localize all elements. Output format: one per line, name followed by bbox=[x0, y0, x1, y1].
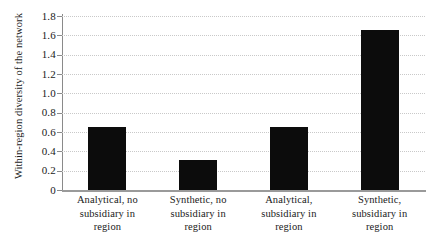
x-axis-category-label-line: Synthetic, bbox=[334, 193, 425, 207]
y-axis-tick-mark bbox=[57, 16, 62, 17]
x-axis-category-label-line: region bbox=[153, 220, 244, 234]
x-axis-category-label-line: region bbox=[62, 220, 153, 234]
x-axis-category-label: Analytical,subsidiary inregion bbox=[244, 193, 335, 234]
y-axis-tick-label: 0.8 bbox=[30, 107, 56, 118]
bar bbox=[361, 30, 399, 190]
y-axis-title: Within-region diversity of the network bbox=[11, 0, 27, 196]
y-axis-tick-mark bbox=[57, 171, 62, 172]
bar bbox=[270, 127, 308, 190]
y-axis-tick-label: 0.6 bbox=[30, 127, 56, 138]
x-axis-category-label-line: subsidiary in bbox=[244, 207, 335, 221]
x-axis-category-label-line: region bbox=[334, 220, 425, 234]
y-axis-tick-label: 1.2 bbox=[30, 69, 56, 80]
x-axis-category-label-line: region bbox=[244, 220, 335, 234]
x-axis-category-label: Analytical, nosubsidiary inregion bbox=[62, 193, 153, 234]
x-axis-category-label-line: Analytical, bbox=[244, 193, 335, 207]
plot-area bbox=[62, 16, 425, 190]
y-axis-tick-label: 1.6 bbox=[30, 30, 56, 41]
y-axis-tick-label: 1.4 bbox=[30, 49, 56, 60]
x-axis-category-label-line: subsidiary in bbox=[62, 207, 153, 221]
bar-chart: Within-region diversity of the network 1… bbox=[0, 0, 438, 238]
y-axis-tick-mark bbox=[57, 151, 62, 152]
x-axis-category-labels: Analytical, nosubsidiary inregionSynthet… bbox=[62, 193, 426, 238]
y-axis-tick-label: 1.8 bbox=[30, 11, 56, 22]
y-axis-tick-mark bbox=[57, 35, 62, 36]
x-axis-line bbox=[62, 190, 426, 192]
y-axis-tick-mark bbox=[57, 132, 62, 133]
y-axis-tick-mark bbox=[57, 74, 62, 75]
x-axis-category-label-line: subsidiary in bbox=[334, 207, 425, 221]
y-axis-tick-labels: 1.81.61.41.21.00.80.60.40.20 bbox=[26, 0, 56, 238]
x-axis-category-label: Synthetic, nosubsidiary inregion bbox=[153, 193, 244, 234]
y-axis-tick-label: 0 bbox=[30, 185, 56, 196]
x-axis-category-label-line: Synthetic, no bbox=[153, 193, 244, 207]
y-axis-tick-label: 0.2 bbox=[30, 165, 56, 176]
x-axis-category-label-line: subsidiary in bbox=[153, 207, 244, 221]
x-axis-category-label-line: Analytical, no bbox=[62, 193, 153, 207]
y-axis-tick-label: 0.4 bbox=[30, 146, 56, 157]
y-axis-tick-mark bbox=[57, 55, 62, 56]
bar bbox=[179, 160, 217, 190]
bar bbox=[88, 127, 126, 190]
x-axis-category-label: Synthetic,subsidiary inregion bbox=[334, 193, 425, 234]
y-axis-tick-mark bbox=[57, 93, 62, 94]
y-axis-tick-label: 1.0 bbox=[30, 88, 56, 99]
gridline bbox=[62, 16, 425, 17]
y-axis-tick-mark bbox=[57, 113, 62, 114]
y-axis-tick-mark bbox=[57, 190, 62, 191]
